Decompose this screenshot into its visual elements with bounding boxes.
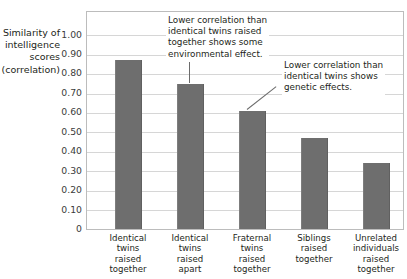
x-label-line: apart — [158, 264, 222, 274]
y-tick-label-0-90: 0.90 — [46, 49, 82, 59]
x-tick-label-fraternal-twins-raised-together: Fraternal twins raised together — [220, 233, 284, 275]
x-label-line: individuals — [344, 243, 407, 253]
y-tick-label-0-30: 0.30 — [46, 166, 82, 176]
bar-fraternal-twins-raised-together[interactable] — [239, 111, 266, 229]
annotation-line: identical twins shows — [284, 71, 383, 82]
y-tick-label-0-20: 0.20 — [46, 185, 82, 195]
annotation-environmental-effect: Lower correlation than identical twins r… — [166, 14, 269, 61]
x-label-line: raised — [344, 254, 407, 264]
x-label-line: raised — [220, 254, 284, 264]
x-label-line: together — [96, 264, 160, 274]
x-label-line: raised — [158, 254, 222, 264]
y-tick-label-1-00: 1.00 — [46, 30, 82, 40]
x-label-line: twins — [158, 243, 222, 253]
x-label-line: raised — [96, 254, 160, 264]
y-tick-label-0: 0 — [46, 224, 82, 234]
bar-identical-twins-raised-apart[interactable] — [177, 84, 204, 229]
annotation-leader-line-environmental — [189, 62, 190, 83]
annotation-line: together shows some — [168, 37, 267, 48]
y-tick-label-0-80: 0.80 — [46, 68, 82, 78]
x-label-line: Siblings — [282, 233, 346, 243]
x-tick-label-identical-twins-raised-together: Identical twins raised together — [96, 233, 160, 275]
x-label-line: together — [344, 264, 407, 274]
bar-chart-figure: Similarity of intelligence scores (corre… — [0, 0, 407, 279]
bar-siblings-raised-together[interactable] — [301, 138, 328, 229]
x-tick-label-siblings-raised-together: Siblings raised together — [282, 233, 346, 264]
annotation-line: Lower correlation than — [284, 60, 383, 71]
y-tick-label-0-10: 0.10 — [46, 205, 82, 215]
annotation-line: identical twins raised — [168, 26, 267, 37]
y-tick-label-0-70: 0.70 — [46, 88, 82, 98]
x-label-line: together — [282, 254, 346, 264]
x-tick-label-unrelated-individuals-raised-together: Unrelated individuals raised together — [344, 233, 407, 275]
annotation-genetic-effects: Lower correlation than identical twins s… — [282, 59, 385, 95]
y-tick-label-0-60: 0.60 — [46, 107, 82, 117]
x-label-line: twins — [96, 243, 160, 253]
annotation-line: environmental effect. — [168, 49, 267, 60]
annotation-line: Lower correlation than — [168, 15, 267, 26]
y-tick-label-0-40: 0.40 — [46, 146, 82, 156]
x-tick-label-identical-twins-raised-apart: Identical twins raised apart — [158, 233, 222, 275]
bar-identical-twins-raised-together[interactable] — [115, 60, 142, 229]
x-label-line: raised — [282, 243, 346, 253]
x-label-line: Fraternal — [220, 233, 284, 243]
x-label-line: Unrelated — [344, 233, 407, 243]
x-label-line: Identical — [158, 233, 222, 243]
x-label-line: Identical — [96, 233, 160, 243]
bar-unrelated-individuals-raised-together[interactable] — [363, 163, 390, 229]
x-label-line: twins — [220, 243, 284, 253]
annotation-line: genetic effects. — [284, 82, 383, 93]
y-tick-label-0-50: 0.50 — [46, 127, 82, 137]
x-label-line: together — [220, 264, 284, 274]
